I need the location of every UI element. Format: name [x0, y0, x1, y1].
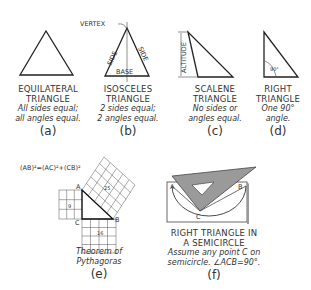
caption-a-title-2: TRIANGLE: [12, 94, 84, 104]
caption-c: SCALENE TRIANGLE No sides or angles equa…: [180, 84, 250, 138]
svg-text:B: B: [115, 216, 119, 224]
caption-d-title-1: RIGHT: [250, 84, 306, 94]
caption-f-title-1: RIGHT TRIANGLE IN: [156, 228, 272, 238]
caption-c-title-1: SCALENE: [180, 84, 250, 94]
svg-text:A: A: [76, 183, 81, 191]
caption-a-tag: (a): [12, 125, 84, 138]
caption-c-title-2: TRIANGLE: [180, 94, 250, 104]
caption-c-tag: (c): [180, 125, 250, 138]
caption-d-title-2: TRIANGLE: [250, 94, 306, 104]
base-label: BASE: [116, 68, 133, 76]
right-triangle-figure: 90°: [264, 32, 298, 77]
caption-b: ISOSCELES TRIANGLE 2 sides equal; 2 angl…: [92, 84, 164, 138]
caption-c-desc-2: angles equal.: [180, 114, 250, 124]
svg-text:A: A: [170, 183, 175, 191]
caption-d-tag: (d): [250, 125, 306, 138]
vertex-label: VERTEX: [80, 20, 106, 28]
pythagoras-figure: (AB)²=(AC)²+(CB)² 9 16: [20, 157, 135, 253]
equilateral-triangle-figure: [20, 31, 73, 75]
svg-text:9: 9: [68, 203, 71, 209]
caption-b-title-1: ISOSCELES: [92, 84, 164, 94]
svg-text:16: 16: [97, 230, 103, 236]
svg-text:C: C: [196, 213, 201, 221]
caption-b-title-2: TRIANGLE: [92, 94, 164, 104]
caption-c-desc-1: No sides or: [180, 104, 250, 114]
caption-d-desc-1: One 90°: [250, 104, 306, 114]
pythagoras-formula: (AB)²=(AC)²+(CB)²: [20, 164, 81, 172]
caption-e-desc-1: Theorem of: [64, 247, 134, 257]
caption-f-tag: (f): [156, 269, 272, 282]
side-left-label: SIDE: [106, 50, 120, 67]
svg-text:C: C: [75, 219, 80, 227]
caption-e-tag: (e): [64, 268, 134, 281]
semicircle-figure: A B C: [167, 167, 256, 224]
svg-text:B: B: [238, 183, 242, 191]
caption-b-tag: (b): [92, 125, 164, 138]
caption-b-desc-1: 2 sides equal;: [92, 104, 164, 114]
caption-d: RIGHT TRIANGLE One 90° angle. (d): [250, 84, 306, 138]
caption-a-desc-2: all angles equal.: [12, 114, 84, 124]
altitude-label: ALTITUDE: [180, 42, 188, 73]
right-angle-label: 90°: [270, 66, 279, 72]
caption-a-desc-1: All sides equal;: [12, 104, 84, 114]
caption-f-desc-2: semicircle. ∠ACB=90°.: [156, 258, 272, 268]
isosceles-triangle-figure: VERTEX SIDE SIDE BASE: [80, 20, 150, 82]
caption-a-title-1: EQUILATERAL: [12, 84, 84, 94]
caption-f-desc-1: Assume any point C on: [156, 248, 272, 258]
caption-d-desc-2: angle.: [250, 114, 306, 124]
svg-text:25: 25: [104, 185, 110, 191]
scalene-triangle-figure: ALTITUDE: [178, 32, 233, 77]
caption-e-desc-2: Pythagoras: [64, 257, 134, 267]
caption-a: EQUILATERAL TRIANGLE All sides equal; al…: [12, 84, 84, 138]
caption-b-desc-2: 2 angles equal.: [92, 114, 164, 124]
caption-e: Theorem of Pythagoras (e): [64, 247, 134, 281]
caption-f-title-2: A SEMICIRCLE: [156, 238, 272, 248]
caption-f: RIGHT TRIANGLE IN A SEMICIRCLE Assume an…: [156, 228, 272, 282]
